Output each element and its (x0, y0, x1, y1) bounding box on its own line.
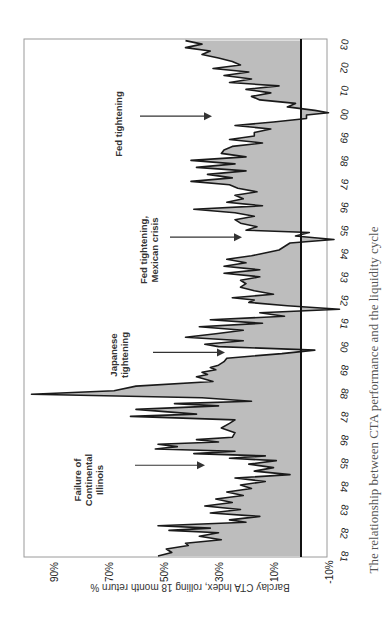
year-axis-ticks: 8182838485868788899091929394959697989900… (338, 38, 351, 563)
year-tick-label: 03 (338, 38, 351, 51)
year-tick-label: 87 (338, 411, 351, 424)
year-tick-label: 95 (338, 224, 351, 237)
year-tick-label: 88 (338, 387, 351, 400)
year-tick-label: 84 (338, 480, 351, 493)
year-tick-label: 00 (338, 108, 351, 121)
year-tick-label: 98 (338, 155, 351, 168)
year-tick-label: 81 (338, 550, 351, 563)
value-tick-label: -10% (324, 560, 335, 583)
year-tick-label: 99 (338, 131, 351, 144)
value-tick-label: 70% (104, 562, 115, 582)
annotation-label: tightening (119, 332, 130, 378)
figure-caption: The relationship between CTA performance… (366, 226, 381, 573)
annotation-label: Fed tightening (113, 91, 124, 157)
year-tick-label: 97 (338, 178, 351, 191)
year-tick-label: 96 (338, 201, 351, 214)
value-tick-label: 30% (214, 562, 225, 582)
value-axis-ticks: -10%10%30%50%70%90% (49, 560, 335, 583)
year-tick-label: 89 (338, 364, 351, 377)
annotation-label: Japanese (108, 333, 119, 376)
value-tick-label: 50% (159, 562, 170, 582)
annotation-label: Continental (83, 454, 94, 506)
annotation-label: Mexican crisis (149, 218, 160, 283)
year-tick-label: 93 (338, 271, 351, 284)
year-tick-label: 91 (338, 317, 351, 330)
year-tick-label: 82 (338, 527, 351, 540)
rotated-area-chart: -10%10%30%50%70%90% 81828384858687888990… (0, 0, 383, 619)
annotation-label: Failure of (72, 458, 83, 502)
year-tick-label: 01 (338, 85, 351, 98)
year-tick-label: 90 (338, 341, 351, 354)
value-tick-label: 90% (49, 562, 60, 582)
year-tick-label: 83 (338, 504, 351, 517)
annotation-label: Fed tightening, (138, 216, 149, 284)
year-tick-label: 86 (338, 434, 351, 447)
annotation-label: Illinois (94, 465, 105, 495)
value-tick-label: 10% (269, 562, 280, 582)
year-tick-label: 92 (338, 294, 351, 307)
year-tick-label: 94 (338, 248, 351, 261)
year-tick-label: 85 (338, 457, 351, 470)
value-axis-title: Barclay CTA Index, rolling 18 month retu… (90, 582, 289, 593)
year-tick-label: 02 (338, 62, 351, 75)
